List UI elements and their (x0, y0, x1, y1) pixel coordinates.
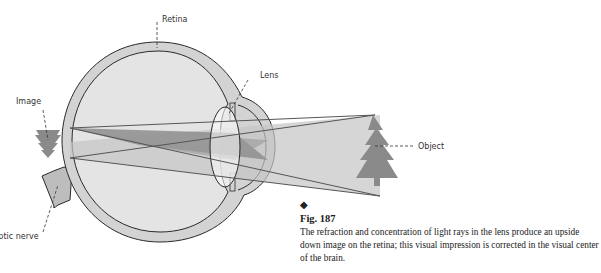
image-label: Image (16, 97, 41, 106)
image-tree-icon (35, 130, 61, 158)
lens-label: Lens (260, 71, 278, 80)
lens (210, 107, 240, 187)
optic-nerve-label: Optic nerve (0, 232, 39, 241)
object-label: Object (418, 142, 444, 151)
figure-caption: ◆ Fig. 187 The refraction and concentrat… (300, 200, 600, 265)
retina-label: Retina (162, 15, 188, 24)
caption-text: The refraction and concentration of ligh… (300, 226, 600, 265)
figure-number: Fig. 187 (300, 212, 600, 226)
diamond-icon: ◆ (300, 200, 600, 212)
